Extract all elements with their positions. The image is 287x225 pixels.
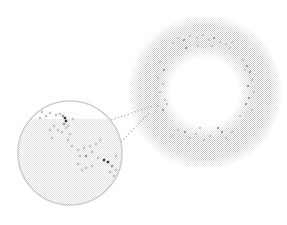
inset-particle — [49, 112, 51, 114]
ring-particle — [189, 137, 191, 139]
inset-particle — [49, 129, 51, 131]
ring-particle — [225, 137, 227, 139]
ring-particle — [197, 45, 199, 47]
ring-particle — [219, 41, 221, 43]
inset-content — [18, 111, 122, 223]
ring-particle — [217, 127, 219, 129]
ring-particle — [177, 129, 179, 131]
inset-particle — [65, 127, 67, 129]
inset-particle — [113, 175, 115, 177]
ring-particle — [231, 131, 233, 133]
inset-particle — [77, 163, 79, 165]
ring-particle — [239, 115, 241, 117]
inset-particle — [99, 139, 101, 141]
inset-particle — [61, 131, 63, 133]
ring-particle — [159, 61, 161, 63]
inset-particle — [79, 155, 81, 157]
ring-particle — [208, 39, 210, 41]
ring-particle — [189, 35, 191, 37]
inset-particle — [115, 169, 117, 171]
ring-particle — [211, 45, 213, 47]
ring-particle — [251, 79, 253, 81]
ring-particle — [195, 133, 197, 135]
ring-particle — [159, 91, 161, 93]
inset-particle — [111, 165, 113, 167]
ring-particle — [202, 34, 204, 36]
ring-particle — [249, 71, 251, 73]
ring-particle — [213, 37, 215, 39]
inset-particle — [65, 120, 67, 122]
ring-particle — [251, 109, 253, 111]
magnified-inset-circle — [18, 101, 122, 223]
magnified-particle-ring-diagram — [0, 0, 287, 225]
inset-particle — [53, 125, 55, 127]
ring-particle — [245, 103, 247, 105]
inset-particle — [45, 115, 47, 117]
ring-particle — [157, 77, 159, 79]
ring-particle — [185, 47, 187, 49]
ring-particle — [203, 139, 205, 141]
inset-particle — [77, 149, 79, 151]
inset-particle — [72, 118, 74, 120]
ring-particle — [196, 37, 198, 39]
ring-particle — [248, 97, 250, 99]
inset-particle — [57, 129, 59, 131]
ring-particle — [221, 131, 223, 133]
ring-particle — [225, 43, 227, 45]
ring-particle — [162, 83, 164, 85]
ring-particle — [209, 135, 211, 137]
inset-particle — [55, 114, 57, 116]
inset-particle — [69, 133, 71, 135]
ring-particle — [229, 47, 231, 49]
ring-particle — [253, 91, 255, 93]
inset-particle — [85, 167, 87, 169]
inset-particle — [91, 151, 93, 153]
ring-particle — [247, 85, 249, 87]
inset-particle — [39, 117, 41, 119]
inset-particle — [81, 169, 83, 171]
inset-particle — [95, 143, 97, 145]
inset-particle — [59, 113, 61, 115]
inset-particle — [51, 137, 53, 139]
inset-particle — [67, 139, 69, 141]
inset-particle — [63, 123, 65, 125]
inset-particle — [115, 155, 117, 157]
ring-particle — [171, 135, 173, 137]
ring-particle — [177, 37, 179, 39]
inset-particle — [109, 171, 111, 173]
figure-canvas — [0, 0, 287, 225]
inset-particle — [97, 157, 99, 159]
ring-particle — [244, 69, 246, 71]
ring-particle — [199, 127, 201, 129]
ring-particle — [164, 99, 166, 101]
ring-particle — [157, 105, 159, 107]
white-core — [157, 44, 253, 140]
inset-particle — [41, 111, 43, 113]
ring-particle — [166, 103, 168, 105]
ring-particle — [163, 69, 165, 71]
inset-particle — [91, 165, 93, 167]
main-particle-disc — [127, 14, 283, 170]
inset-particle — [83, 147, 85, 149]
inset-particle — [103, 159, 105, 161]
inset-particle — [89, 145, 91, 147]
inset-particle — [85, 155, 87, 157]
inset-particle — [64, 117, 66, 119]
ring-particle — [246, 65, 248, 67]
inset-particle — [71, 145, 73, 147]
ring-particle — [162, 109, 164, 111]
ring-particle — [184, 131, 186, 133]
inset-particle — [107, 161, 109, 163]
ring-particle — [242, 59, 244, 61]
ring-particle — [231, 41, 233, 43]
ring-particle — [183, 39, 185, 41]
ring-particle — [172, 42, 174, 44]
